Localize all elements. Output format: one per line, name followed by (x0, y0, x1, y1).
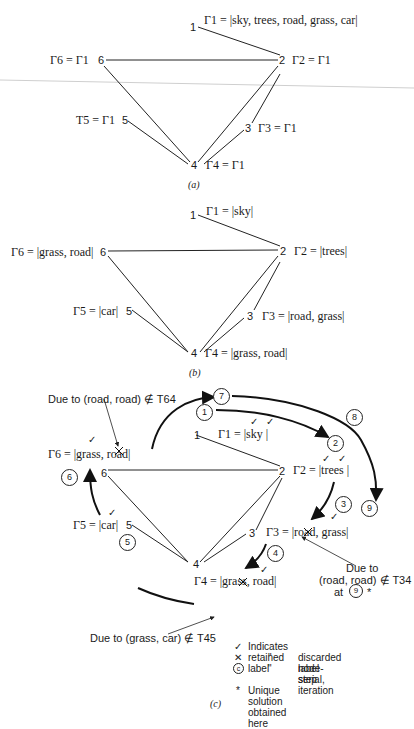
circle-c-icon: c (233, 663, 244, 674)
annotation-t64: Due to (road, road) ∉ T64 (48, 393, 176, 405)
node-5: 5 (122, 114, 128, 126)
step-9-circle: 9 (361, 500, 378, 517)
step-5-circle: 5 (119, 534, 136, 551)
node-1: 1 (194, 429, 200, 441)
legend-circle-text-2: step (298, 674, 317, 685)
node-6-label: Γ6 = |grass, road| (48, 448, 131, 460)
node-5-label: Γ5 = |car| (73, 305, 118, 317)
annotation-t34-line1: Due to (346, 562, 378, 574)
node-6: 6 (98, 54, 104, 66)
ditto-mark: " (268, 652, 272, 663)
node-4: 4 (191, 159, 197, 171)
caption-a: (a) (188, 179, 200, 190)
node-1-label: Γ1 = |sky| (206, 205, 253, 217)
check-icon: ✓ (260, 565, 268, 575)
node-1: 1 (190, 21, 196, 33)
annotation-t45: Due to (grass, car) ∉ T45 (90, 632, 216, 644)
check-icon: ✓ (322, 454, 330, 464)
node-3: 3 (247, 310, 253, 322)
node-4-label: Γ4 = Γ1 (206, 159, 245, 171)
node-6: 6 (100, 246, 106, 258)
check-icon: ✓ (266, 417, 274, 427)
cross-icon: ✕ (232, 652, 244, 663)
node-2: 2 (279, 465, 285, 477)
step-2-circle: 2 (327, 435, 344, 452)
node-3-label: Γ3 = |road, grass| (266, 526, 349, 538)
step-1-circle: 1 (196, 404, 213, 421)
node-5-label: T5 = Γ1 (76, 114, 115, 126)
check-icon: ✓ (108, 508, 116, 518)
node-5: 5 (126, 305, 132, 317)
node-2-label: Γ2 = |trees| (294, 245, 347, 257)
node-4-label: Γ4 = |grass, road| (194, 575, 277, 587)
legend-star-text: Unique solution obtained here (248, 685, 286, 729)
check-icon: ✓ (330, 512, 338, 522)
node-2-label: Γ2 = |trees | (293, 464, 349, 476)
node-1: 1 (190, 209, 196, 221)
annotation-t34-line3: at (334, 586, 343, 598)
step-8-circle: 8 (346, 409, 363, 426)
node-3-label: Γ3 = Γ1 (258, 122, 297, 134)
node-3: 3 (245, 122, 251, 134)
unique-solution-star: * (367, 586, 371, 598)
node-3: 3 (249, 527, 255, 539)
node-4: 4 (191, 347, 197, 359)
node-2: 2 (279, 54, 285, 66)
node-2: 2 (280, 245, 286, 257)
step-6-circle: 6 (61, 469, 78, 486)
node-6-label: Γ6 = |grass, road| (11, 246, 94, 258)
node-3-label: Γ3 = |road, grass| (262, 310, 345, 322)
step-4-circle: 4 (267, 545, 284, 562)
node-5-label: Γ5 = |car| (73, 519, 118, 531)
caption-b: (b) (189, 367, 201, 378)
step-9-reference-circle: 9 (349, 584, 363, 598)
node-4: 4 (193, 558, 199, 570)
step-3-circle: 3 (335, 496, 352, 513)
node-1-label: Γ1 = |sky | (218, 428, 268, 440)
node-5: 5 (126, 519, 132, 531)
node-4-label: Γ4 = |grass, road| (205, 347, 288, 359)
caption-c: (c) (210, 698, 221, 709)
node-6-label: Γ6 = Γ1 (50, 54, 89, 66)
check-icon: ✓ (250, 417, 258, 427)
check-icon: ✓ (88, 435, 96, 445)
step-7-circle: 7 (213, 388, 230, 405)
node-6: 6 (101, 467, 107, 479)
check-icon: ✓ (338, 454, 346, 464)
annotation-t34-line2: (road, road) ∉ T34 (319, 574, 411, 586)
star-icon: * (232, 685, 244, 696)
node-1-label: Γ1 = |sky, trees, road, grass, car| (204, 14, 358, 26)
node-2-label: Γ2 = Γ1 (292, 54, 331, 66)
check-icon: ✓ (232, 641, 244, 652)
ditto-mark: " (268, 663, 272, 674)
